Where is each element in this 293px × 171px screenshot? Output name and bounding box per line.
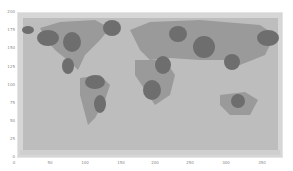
ytick-125: 125	[2, 65, 15, 69]
xtick-150: 150	[111, 161, 131, 165]
ytick-175: 175	[2, 28, 15, 32]
ytick-150: 150	[2, 46, 15, 50]
usa-blob	[62, 58, 74, 74]
ytick-200: 200	[2, 10, 15, 14]
map-shapes	[0, 0, 293, 171]
figure: 200 175 150 125 100 75 50 25 0 0 50 100 …	[0, 0, 293, 171]
siberia-blob	[193, 36, 215, 58]
south-america-south-blob	[94, 95, 106, 113]
africa-blob	[143, 80, 161, 100]
xtick-50: 50	[40, 161, 60, 165]
ytick-75: 75	[2, 101, 15, 105]
xtick-0: 0	[4, 161, 24, 165]
ytick-50: 50	[2, 119, 15, 123]
ytick-25: 25	[2, 137, 15, 141]
australia-blob	[231, 94, 245, 108]
xtick-350: 350	[252, 161, 272, 165]
central-asia-blob	[224, 54, 240, 70]
xtick-250: 250	[180, 161, 200, 165]
ytick-0: 0	[2, 155, 15, 159]
xtick-300: 300	[216, 161, 236, 165]
canada-east-blob	[63, 32, 81, 52]
south-america-north-blob	[85, 75, 105, 89]
ytick-100: 100	[2, 83, 15, 87]
europe-blob	[155, 56, 171, 74]
alaska-blob	[22, 26, 34, 34]
xtick-100: 100	[75, 161, 95, 165]
canada-west-blob	[37, 30, 59, 46]
xtick-200: 200	[145, 161, 165, 165]
antarctica-band	[20, 150, 280, 155]
greenland-blob	[103, 20, 121, 36]
scandinavia-blob	[169, 26, 187, 42]
east-asia-blob	[257, 30, 279, 46]
